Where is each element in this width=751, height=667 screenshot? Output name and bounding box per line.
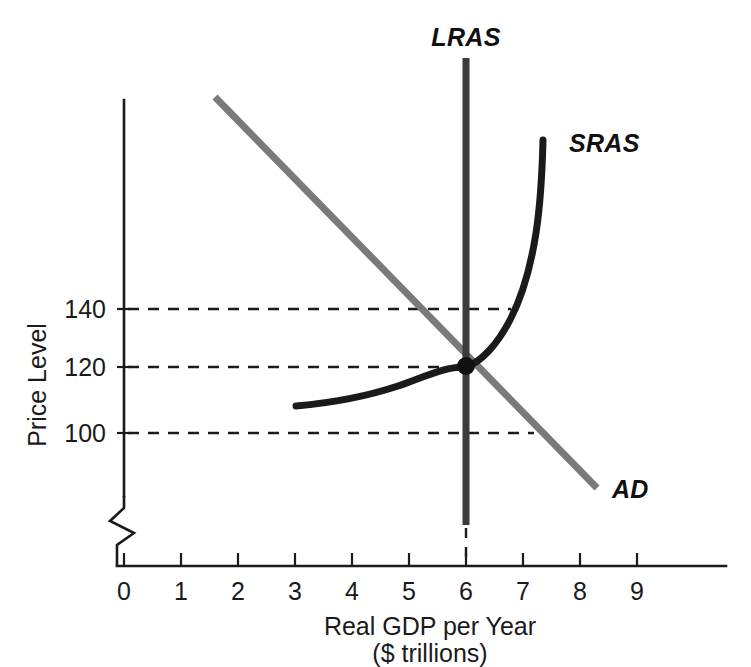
x-tick-labels: 0 1 2 3 4 5 6 7 8 9: [117, 577, 644, 605]
lras-label: LRAS: [431, 23, 500, 51]
y-axis-break-symbol: [110, 496, 134, 566]
x-tick-label-8: 8: [573, 577, 587, 605]
x-tick-label-5: 5: [402, 577, 416, 605]
equilibrium-point: [457, 357, 475, 375]
ad-label: AD: [611, 475, 649, 503]
x-tick-label-3: 3: [288, 577, 302, 605]
y-tick-label-120: 120: [64, 353, 106, 381]
y-tick-label-140: 140: [64, 295, 106, 323]
x-tick-label-7: 7: [516, 577, 530, 605]
x-axis-title-line2: ($ trillions): [372, 639, 487, 667]
x-axis-title-line1: Real GDP per Year: [324, 612, 536, 640]
x-tick-label-9: 9: [630, 577, 644, 605]
y-tick-labels: 140 120 100: [64, 295, 106, 447]
x-tick-label-1: 1: [174, 577, 188, 605]
x-tick-label-2: 2: [231, 577, 245, 605]
x-tick-marks: [124, 553, 637, 566]
y-axis-title: Price Level: [23, 323, 51, 447]
x-tick-label-4: 4: [345, 577, 359, 605]
x-tick-label-0: 0: [117, 577, 131, 605]
ad-as-chart-svg: 0 1 2 3 4 5 6 7 8 9 140 120 100 LRAS SRA…: [0, 0, 751, 667]
y-tick-label-100: 100: [64, 419, 106, 447]
x-tick-label-6: 6: [459, 577, 473, 605]
sras-label: SRAS: [569, 129, 640, 157]
chart-container: 0 1 2 3 4 5 6 7 8 9 140 120 100 LRAS SRA…: [0, 0, 751, 667]
